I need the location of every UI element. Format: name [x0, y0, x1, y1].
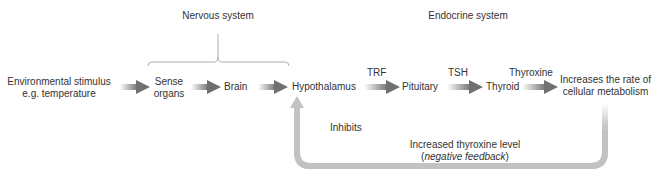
nervous-system-header: Nervous system: [168, 10, 268, 22]
endocrine-system-header: Endocrine system: [413, 10, 523, 22]
negative-feedback-text: negative feedback: [424, 151, 505, 162]
arrow-thyroid-to-outcome: [522, 80, 558, 94]
arrow-pituitary-to-thyroid: [447, 80, 483, 94]
arrow-stimulus-to-sense: [120, 80, 150, 94]
arrow-hypothalamus-to-pituitary: [364, 80, 400, 94]
edge-label-tsh: TSH: [448, 67, 468, 79]
feedback-description: Increased thyroxine level (negative feed…: [390, 139, 540, 163]
feedback-line2: (negative feedback): [390, 151, 540, 163]
node-pituitary: Pituitary: [402, 81, 438, 93]
feedback-line1: Increased thyroxine level: [390, 139, 540, 151]
arrow-brain-to-hypothalamus: [258, 80, 288, 94]
sense-line2: organs: [150, 88, 188, 100]
nervous-system-bracket: [148, 34, 289, 66]
arrow-sense-to-brain: [191, 80, 221, 94]
paren-close: ): [506, 151, 509, 162]
feedback-inhibits-label: Inhibits: [330, 122, 362, 134]
outcome-line2: cellular metabolism: [556, 86, 655, 98]
node-sense-organs: Sense organs: [150, 76, 188, 100]
node-outcome: Increases the rate of cellular metabolis…: [556, 74, 655, 98]
node-brain: Brain: [224, 81, 247, 93]
stimulus-line2: e.g. temperature: [0, 88, 118, 100]
stimulus-line1: Environmental stimulus: [0, 76, 118, 88]
node-hypothalamus: Hypothalamus: [292, 81, 356, 93]
node-thyroid: Thyroid: [486, 81, 519, 93]
edge-label-trf: TRF: [367, 67, 386, 79]
sense-line1: Sense: [150, 76, 188, 88]
edge-label-thyroxine: Thyroxine: [509, 67, 553, 79]
outcome-line1: Increases the rate of: [556, 74, 655, 86]
node-environmental-stimulus: Environmental stimulus e.g. temperature: [0, 76, 118, 100]
